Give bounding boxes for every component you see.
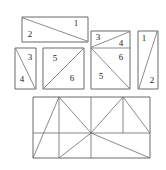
piece-group-square: 5 6 [43, 48, 84, 89]
piece-label-6a: 6 [70, 73, 75, 83]
piece-label-1b: 1 [142, 33, 147, 43]
assembled-rectangle [33, 97, 150, 158]
piece-label-3b: 3 [96, 32, 101, 42]
dissection-figure: 2 1 3 4 5 6 3 4 6 5 [0, 0, 166, 170]
piece-label-1a: 1 [74, 18, 79, 28]
piece-label-4a: 4 [20, 74, 25, 84]
piece-group-composite: 3 4 6 5 [91, 31, 130, 89]
assembly-outline [33, 97, 150, 158]
piece-group-left-tall: 3 4 [15, 48, 36, 89]
piece-group-right-tall: 1 2 [138, 31, 158, 89]
piece-label-6b: 6 [119, 52, 124, 62]
figure-canvas: 2 1 3 4 5 6 3 4 6 5 [0, 0, 166, 170]
piece-label-2a: 2 [28, 29, 33, 39]
piece-label-5a: 5 [53, 53, 58, 63]
piece-label-5b: 5 [99, 71, 104, 81]
piece-group-top-left: 2 1 [22, 17, 88, 42]
piece-label-2b: 2 [150, 75, 155, 85]
piece-label-4b: 4 [119, 38, 124, 48]
piece-label-3a: 3 [28, 52, 33, 62]
